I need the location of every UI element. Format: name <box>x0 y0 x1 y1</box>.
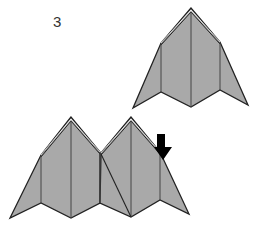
joined-unit-right <box>100 117 189 217</box>
single-folded-unit <box>133 8 248 108</box>
diagram-illustration <box>0 0 261 230</box>
origami-diagram: 3 <box>0 0 261 230</box>
joined-unit-left <box>10 117 100 218</box>
